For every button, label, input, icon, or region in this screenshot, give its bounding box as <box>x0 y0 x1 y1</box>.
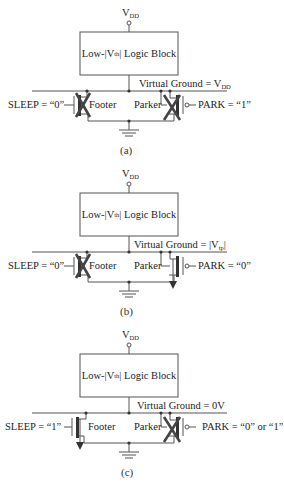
virtual-ground-label: Virtual Ground = VDD <box>139 79 231 91</box>
parker-label: Parker <box>134 422 161 433</box>
current-arrow-icon <box>169 281 177 289</box>
logic-block-label: Low-|Vth| Logic Block <box>80 354 178 397</box>
logic-block-label: Low-|Vth| Logic Block <box>80 193 178 236</box>
vdd-terminal-icon <box>127 21 131 25</box>
vdd-terminal-icon <box>127 182 131 186</box>
footer-label: Footer <box>89 100 116 111</box>
virtual-ground-label: Virtual Ground = |Vtp| <box>134 240 226 252</box>
panel-a: VDD Low-|Vth| Logic Block Virtual Ground… <box>0 0 284 160</box>
footer-label: Footer <box>89 261 116 272</box>
panel-c: VDD Low-|Vth| Logic Block Virtual Ground… <box>0 322 284 482</box>
caption-c: (c) <box>121 467 133 478</box>
sleep-signal-label: SLEEP = “0” <box>8 261 64 272</box>
sleep-signal-label: SLEEP = “1” <box>5 422 61 433</box>
current-arrow-icon <box>76 442 84 450</box>
parker-label: Parker <box>134 261 161 272</box>
caption-a: (a) <box>120 145 132 156</box>
vdd-label: VDD <box>122 8 139 20</box>
caption-b: (b) <box>120 306 133 317</box>
park-signal-label: PARK = “0” <box>198 261 251 272</box>
parker-label: Parker <box>134 100 161 111</box>
vdd-terminal-icon <box>127 343 131 347</box>
park-signal-label: PARK = “1” <box>198 100 251 111</box>
footer-channel <box>76 417 79 438</box>
virtual-ground-label: Virtual Ground = 0V <box>137 401 225 413</box>
footer-label: Footer <box>88 422 115 433</box>
vdd-label: VDD <box>122 330 139 342</box>
park-signal-label: PARK = “0” or “1” <box>202 422 283 433</box>
panel-b: VDD Low-|Vth| Logic Block Virtual Ground… <box>0 161 284 321</box>
parker-channel <box>176 256 179 277</box>
vdd-label: VDD <box>122 169 139 181</box>
sleep-signal-label: SLEEP = “0” <box>8 100 64 111</box>
logic-block-label: Low-|Vth| Logic Block <box>80 32 178 75</box>
